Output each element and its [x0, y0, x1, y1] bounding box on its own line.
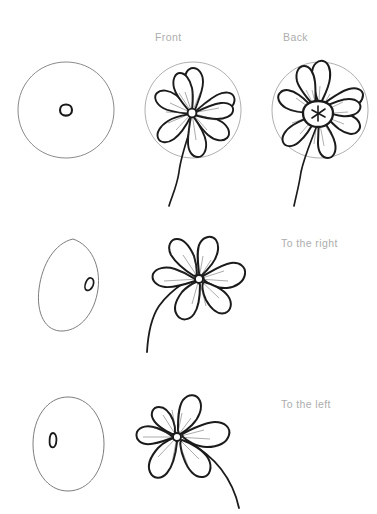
- flower-to-the-right-center: [195, 275, 203, 283]
- guide-center-dot-front: [60, 105, 72, 116]
- label-front: Front: [155, 32, 182, 43]
- flower-front-center: [188, 109, 197, 118]
- flower-back: [272, 61, 368, 206]
- flower-to-the-left: [136, 395, 239, 508]
- flower-to-the-left-center: [173, 433, 181, 441]
- guide-center-dot-left: [50, 433, 57, 447]
- flower-line-art: [0, 0, 377, 514]
- flower-front: [145, 62, 241, 206]
- label-to-the-right: To the right: [281, 238, 338, 249]
- label-to-the-left: To the left: [281, 399, 331, 410]
- flower-to-the-right: [147, 237, 245, 352]
- flower-back-calyx: [303, 101, 333, 127]
- flower-back-star-mark: [312, 106, 325, 121]
- guide-ellipse-left: [33, 397, 104, 491]
- guide-center-dot-right: [85, 278, 94, 291]
- label-back: Back: [283, 32, 308, 43]
- drawing-sheet: Front Back To the right To the left: [0, 0, 377, 514]
- guide-ellipse-right: [38, 239, 98, 331]
- guide-circle-front: [18, 62, 114, 158]
